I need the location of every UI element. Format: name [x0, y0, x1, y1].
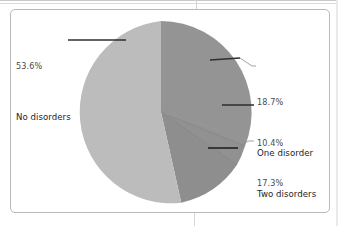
pie-label-no-disorders: 53.6% No disorders — [16, 23, 71, 162]
figure-root: 53.6% No disorders 18.7% One disorder 10… — [0, 0, 338, 226]
pie-label-three-or-more-disorders: 17.3% Three or more disorders — [257, 140, 319, 226]
pie-label-no-disorders-name: No disorders — [16, 112, 71, 123]
pie-label-no-disorders-percent: 53.6% — [16, 62, 71, 72]
pie-label-three-or-more-percent: 17.3% — [257, 179, 319, 189]
leader-elbow-one-disorder — [240, 58, 256, 66]
